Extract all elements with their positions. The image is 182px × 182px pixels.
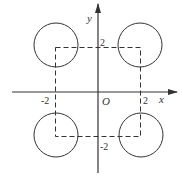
diagram-canvas: y x O -2 2 2 -2: [0, 0, 182, 182]
coordinate-plane: y x O -2 2 2 -2: [0, 0, 182, 182]
tick-label-y-neg: -2: [100, 141, 108, 152]
origin-label: O: [102, 95, 110, 107]
tick-label-y-pos: 2: [100, 37, 105, 48]
circle-top-left: [34, 23, 78, 67]
tick-label-x-pos: 2: [143, 95, 148, 106]
tick-label-x-neg: -2: [41, 95, 49, 106]
x-axis-label: x: [158, 93, 164, 105]
y-axis-label: y: [86, 12, 92, 24]
